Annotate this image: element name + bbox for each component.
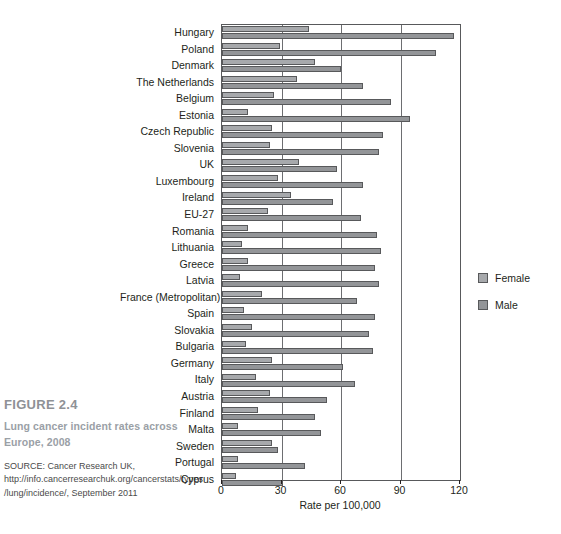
bar-female[interactable] [222, 374, 256, 380]
bar-female[interactable] [222, 159, 299, 165]
bar-female[interactable] [222, 307, 244, 313]
bar-group [222, 58, 460, 75]
bar-group [222, 207, 460, 224]
bar-male[interactable] [222, 430, 321, 436]
bar-female[interactable] [222, 109, 248, 115]
bar-female[interactable] [222, 324, 252, 330]
category-label: Malta [120, 421, 218, 438]
category-label: Denmark [120, 57, 218, 74]
bar-male[interactable] [222, 99, 391, 105]
tick-label: 60 [334, 484, 346, 496]
bar-male[interactable] [222, 298, 357, 304]
bar-female[interactable] [222, 357, 272, 363]
bar-group [222, 389, 460, 406]
bar-male[interactable] [222, 166, 337, 172]
category-label: France (Metropolitan) [120, 289, 218, 306]
legend-swatch-male [478, 300, 488, 310]
bar-female[interactable] [222, 241, 242, 247]
bar-female[interactable] [222, 407, 258, 413]
category-label: Italy [120, 371, 218, 388]
bar-male[interactable] [222, 314, 375, 320]
tick-label: 0 [218, 484, 224, 496]
category-label: Romania [120, 223, 218, 240]
bar-female[interactable] [222, 142, 270, 148]
bar-male[interactable] [222, 281, 379, 287]
legend-label-male: Male [495, 299, 518, 311]
category-label: Slovenia [120, 140, 218, 157]
bar-female[interactable] [222, 175, 278, 181]
bar-male[interactable] [222, 397, 327, 403]
bar-female[interactable] [222, 258, 248, 264]
plot-area [221, 24, 461, 481]
bar-male[interactable] [222, 50, 436, 56]
bar-male[interactable] [222, 215, 361, 221]
bar-female[interactable] [222, 59, 315, 65]
category-label: Czech Republic [120, 123, 218, 140]
bar-male[interactable] [222, 66, 341, 72]
bar-female[interactable] [222, 125, 272, 131]
bar-female[interactable] [222, 291, 262, 297]
category-label: Hungary [120, 24, 218, 41]
bar-male[interactable] [222, 199, 333, 205]
category-label: Finland [120, 405, 218, 422]
bar-male[interactable] [222, 463, 305, 469]
bar-male[interactable] [222, 149, 379, 155]
x-axis-title: Rate per 100,000 [221, 499, 459, 511]
tick-label: 90 [394, 484, 406, 496]
bar-female[interactable] [222, 76, 297, 82]
bar-chart: HungaryPolandDenmarkThe NetherlandsBelgi… [0, 0, 561, 534]
bar-female[interactable] [222, 440, 272, 446]
legend-swatch-female [478, 273, 488, 283]
bar-male[interactable] [222, 348, 373, 354]
bar-group [222, 257, 460, 274]
bar-rows [222, 25, 460, 480]
bar-male[interactable] [222, 265, 375, 271]
bar-male[interactable] [222, 232, 377, 238]
bar-group [222, 339, 460, 356]
bar-male[interactable] [222, 381, 355, 387]
category-label: Portugal [120, 454, 218, 471]
bar-group [222, 306, 460, 323]
legend-item-female[interactable]: Female [478, 272, 530, 284]
bar-female[interactable] [222, 26, 309, 32]
category-label: Austria [120, 388, 218, 405]
bar-group [222, 174, 460, 191]
bar-male[interactable] [222, 447, 278, 453]
bar-group [222, 240, 460, 257]
category-label: Lithuania [120, 239, 218, 256]
bar-female[interactable] [222, 390, 270, 396]
bar-group [222, 141, 460, 158]
bar-male[interactable] [222, 132, 383, 138]
bar-female[interactable] [222, 274, 240, 280]
bar-female[interactable] [222, 473, 236, 479]
bar-male[interactable] [222, 248, 381, 254]
bar-group [222, 323, 460, 340]
bar-male[interactable] [222, 83, 363, 89]
bar-male[interactable] [222, 33, 454, 39]
bar-male[interactable] [222, 414, 315, 420]
bar-group [222, 124, 460, 141]
tick-label: 120 [450, 484, 468, 496]
bar-female[interactable] [222, 208, 268, 214]
bar-female[interactable] [222, 341, 246, 347]
legend-item-male[interactable]: Male [478, 299, 530, 311]
bar-female[interactable] [222, 423, 238, 429]
category-label: Luxembourg [120, 173, 218, 190]
bar-male[interactable] [222, 331, 369, 337]
category-label: Belgium [120, 90, 218, 107]
bar-female[interactable] [222, 92, 274, 98]
category-label: Slovakia [120, 322, 218, 339]
bar-female[interactable] [222, 225, 248, 231]
category-label: Cyprus [120, 471, 218, 488]
bar-female[interactable] [222, 456, 238, 462]
category-label: The Netherlands [120, 74, 218, 91]
bar-group [222, 25, 460, 42]
bar-female[interactable] [222, 43, 280, 49]
category-axis-labels: HungaryPolandDenmarkThe NetherlandsBelgi… [120, 24, 218, 487]
bar-group [222, 108, 460, 125]
bar-group [222, 190, 460, 207]
bar-female[interactable] [222, 192, 291, 198]
bar-male[interactable] [222, 364, 343, 370]
bar-male[interactable] [222, 116, 410, 122]
bar-male[interactable] [222, 182, 363, 188]
